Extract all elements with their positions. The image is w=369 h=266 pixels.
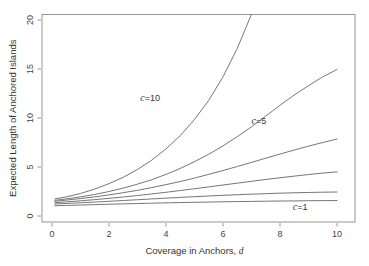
curve-label-value: =1 [297,202,307,212]
curve-label-c-1: c=1 [293,201,308,212]
y-axis-title: Expected Length of Anchored Islands [7,39,18,197]
y-tick-label: 5 [25,164,35,169]
x-axis-title: Coverage in Anchors, d [145,245,243,256]
x-axis-title-text: Coverage in Anchors, [145,245,238,256]
x-axis-title-variable: d [239,246,244,256]
y-axis: 05101520Expected Length of Anchored Isla… [7,15,41,219]
chart-figure: 0246810Coverage in Anchors, d05101520Exp… [0,0,369,266]
curve-annotations: c=10c=5c=1 [140,92,307,212]
x-tick-label: 0 [49,229,54,239]
curve-c-5 [55,69,337,200]
x-tick-label: 10 [332,229,342,239]
curve-curve-3 [55,139,337,201]
y-tick-label: 15 [25,64,35,74]
line-chart: 0246810Coverage in Anchors, d05101520Exp… [0,0,369,266]
curve-label-value: =5 [256,116,266,126]
curve-label-value: =10 [145,93,160,103]
y-tick-label: 10 [25,113,35,123]
x-tick-label: 2 [106,229,111,239]
y-tick-label: 0 [25,213,35,218]
curves-group [55,14,337,206]
x-tick-label: 8 [277,229,282,239]
y-tick-label: 20 [25,15,35,25]
x-tick-label: 6 [220,229,225,239]
curve-label-c-5: c=5 [252,115,267,126]
curve-curve-4 [55,172,337,203]
x-tick-label: 4 [163,229,168,239]
x-axis: 0246810Coverage in Anchors, d [49,223,342,256]
curve-label-c-10: c=10 [140,92,160,103]
